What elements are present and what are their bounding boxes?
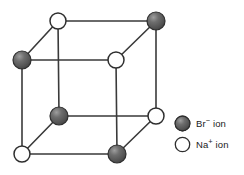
white-sphere-icon (174, 136, 191, 153)
legend-symbol-anion: Br (196, 118, 206, 129)
legend-label-cation: Na+ ion (196, 140, 229, 150)
ion-node-cation (50, 13, 66, 29)
legend-suffix-cation: ion (213, 139, 229, 150)
legend-suffix-anion: ion (210, 118, 226, 129)
legend-item-cation: Na+ ion (174, 134, 244, 155)
lattice-edge (58, 21, 59, 116)
ion-node-cation (148, 108, 164, 124)
ion-node-anion (108, 145, 126, 163)
legend-item-anion: Br− ion (174, 113, 244, 134)
legend: Br− ion Na+ ion (174, 113, 244, 155)
ion-node-cation (108, 52, 124, 68)
ion-node-anion (13, 51, 31, 69)
ion-node-cation (14, 146, 30, 162)
crystal-lattice-figure: Br− ion Na+ ion (0, 0, 244, 175)
legend-label-anion: Br− ion (196, 119, 226, 129)
lattice-edge (116, 60, 117, 154)
ion-node-anion (50, 107, 68, 125)
legend-symbol-cation: Na (196, 139, 208, 150)
lattice-edges (22, 21, 156, 154)
ion-node-anion (147, 12, 165, 30)
dark-sphere-icon (174, 115, 191, 132)
